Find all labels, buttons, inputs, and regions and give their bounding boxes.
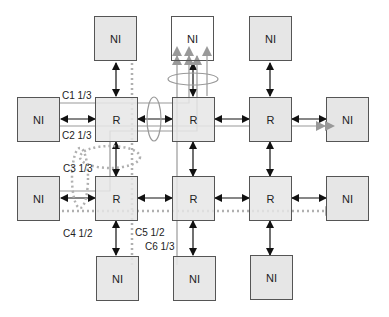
noc-mesh-diagram: NI NI NI NI R R R NI NI R R R NI NI NI N…	[0, 0, 389, 317]
label-c3: C3 1/3	[63, 163, 92, 174]
label-c1: C1 1/3	[62, 90, 91, 101]
label-c2: C2 1/3	[62, 130, 91, 141]
label-c5: C5 1/2	[135, 227, 164, 238]
label-c6: C6 1/3	[145, 241, 174, 252]
ni-top-2-arrowheads	[0, 0, 389, 317]
label-c4: C4 1/2	[63, 228, 92, 239]
